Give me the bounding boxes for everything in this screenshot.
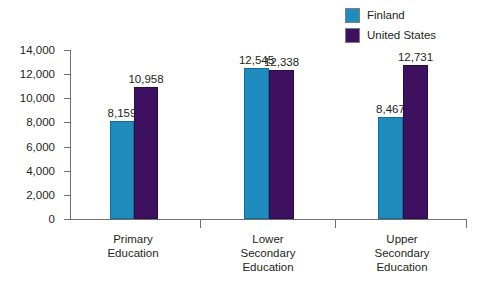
y-axis-tick-label: 8,000 (26, 116, 55, 128)
category-label-2: LowerSecondaryEducation (208, 232, 328, 274)
y-axis-tick-label: 4,000 (26, 165, 55, 177)
category-label-line: Secondary (208, 246, 328, 260)
x-axis-line (70, 219, 467, 220)
y-axis-tick-label: 2,000 (26, 189, 55, 201)
y-axis-tick: 10,000 (64, 98, 70, 99)
category-label-line: Education (73, 246, 193, 260)
category-label-line: Primary (73, 232, 193, 246)
legend-swatch-united-states (345, 28, 360, 43)
category-label-1: PrimaryEducation (73, 232, 193, 260)
y-axis-tick: 6,000 (64, 147, 70, 148)
category-label-line: Lower (208, 232, 328, 246)
bar-finland: 12,545 (244, 68, 269, 219)
bar-chart: Finland United States 14,00012,00010,000… (0, 0, 493, 292)
bar-united-states: 10,958 (134, 87, 158, 219)
legend-item-united-states: United States (345, 28, 436, 43)
y-axis-tick: 14,000 (64, 50, 70, 51)
y-axis-tick: 8,000 (64, 122, 70, 123)
x-axis-separator (466, 219, 467, 228)
y-axis-tick: 12,000 (64, 74, 70, 75)
y-axis-tick: 4,000 (64, 171, 70, 172)
bar-united-states: 12,338 (269, 70, 294, 219)
x-axis-separator (335, 219, 336, 228)
category-label-line: Education (342, 260, 462, 274)
y-axis-tick-label: 12,000 (20, 68, 55, 80)
bar-united-states: 12,731 (403, 65, 428, 219)
y-axis-tick: 0 (64, 219, 70, 220)
bar-value-label: 10,958 (128, 73, 163, 85)
bar-value-label: 8,159 (108, 107, 137, 119)
category-label-line: Secondary (342, 246, 462, 260)
bar-value-label: 8,467 (376, 103, 405, 115)
legend-swatch-finland (345, 8, 360, 23)
legend-label-united-states: United States (367, 29, 436, 42)
bar-finland: 8,159 (110, 121, 134, 219)
y-axis-tick-label: 10,000 (20, 92, 55, 104)
legend-item-finland: Finland (345, 8, 436, 23)
bar-value-label: 12,338 (264, 56, 299, 68)
bar-finland: 8,467 (378, 117, 403, 219)
plot-area: 14,00012,00010,0008,0006,0004,0002,0000 … (70, 50, 467, 219)
bar-value-label: 12,731 (398, 51, 433, 63)
category-label-line: Upper (342, 232, 462, 246)
y-axis-tick-label: 14,000 (20, 44, 55, 56)
category-label-line: Education (208, 260, 328, 274)
x-axis-separator (200, 219, 201, 228)
legend-label-finland: Finland (367, 9, 405, 22)
y-axis-tick: 2,000 (64, 195, 70, 196)
category-label-3: UpperSecondaryEducation (342, 232, 462, 274)
y-axis-tick-label: 0 (49, 213, 55, 225)
y-axis-line (70, 50, 71, 219)
y-axis-tick-label: 6,000 (26, 141, 55, 153)
chart-legend: Finland United States (345, 8, 436, 43)
